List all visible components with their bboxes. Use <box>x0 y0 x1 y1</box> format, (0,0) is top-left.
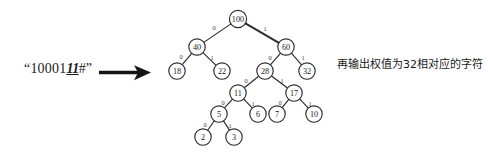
tree-edge <box>204 24 231 43</box>
tree-node: 17 <box>286 85 302 101</box>
tree-node: 32 <box>299 63 315 79</box>
tree-node: 60 <box>278 39 294 55</box>
tree-node-label: 10 <box>310 110 318 119</box>
tree-edge-label: 0 <box>179 53 182 60</box>
tree-edge <box>300 99 309 108</box>
tree-edge-label: 0 <box>212 24 215 31</box>
tree-edge <box>225 99 233 108</box>
tree-node: 2 <box>195 129 211 145</box>
tree-node: 7 <box>269 106 285 122</box>
tree-edge <box>245 23 278 43</box>
tree-edge-label: 1 <box>301 54 304 61</box>
huffman-tree: 01010101010101 1004060182228321117567102… <box>0 0 488 161</box>
tree-node-label: 100 <box>232 15 244 24</box>
tree-edge-label: 0 <box>244 77 247 84</box>
annotation-text: 再输出权值为32相对应的字符 <box>337 55 483 71</box>
tree-node-label: 11 <box>234 89 242 98</box>
tree-node: 10 <box>306 106 322 122</box>
tree-node-label: 7 <box>275 110 279 119</box>
tree-node-label: 22 <box>218 67 226 76</box>
tree-edge-label: 0 <box>203 121 206 128</box>
tree-node: 3 <box>226 129 242 145</box>
tree-node: 100 <box>229 10 246 27</box>
tree-node-label: 18 <box>173 67 181 76</box>
tree-node: 18 <box>169 63 185 79</box>
tree-node-label: 17 <box>290 89 298 98</box>
tree-node-label: 2 <box>201 133 205 142</box>
tree-node-label: 40 <box>193 43 201 52</box>
tree-edge <box>291 53 301 65</box>
tree-edge-label: 1 <box>210 54 213 61</box>
tree-node: 40 <box>189 39 205 55</box>
tree-edge <box>182 53 192 64</box>
tree-edge-label: 0 <box>221 99 224 106</box>
tree-edge <box>270 53 280 65</box>
tree-node-label: 28 <box>261 67 269 76</box>
tree-edge-label: 0 <box>268 54 271 61</box>
tree-edge-label: 0 <box>278 99 281 106</box>
tree-node: 22 <box>214 63 230 79</box>
tree-node: 28 <box>257 63 273 79</box>
tree-node: 11 <box>230 85 246 101</box>
tree-edge <box>208 121 215 131</box>
tree-edge-label: 1 <box>280 77 283 84</box>
tree-edge-label: 1 <box>251 100 254 107</box>
tree-edge-label: 1 <box>308 100 311 107</box>
tree-node-label: 6 <box>256 110 260 119</box>
tree-node: 5 <box>211 106 227 122</box>
tree-node-label: 32 <box>303 67 311 76</box>
tree-node-label: 60 <box>282 43 290 52</box>
tree-edge-label: 1 <box>228 122 231 129</box>
tree-node-label: 3 <box>232 133 236 142</box>
tree-edge <box>282 99 289 107</box>
diagram-page: “1000111#” 01010101010101 10040601822283… <box>0 0 488 161</box>
tree-node-label: 5 <box>217 110 221 119</box>
tree-edge-label: 1 <box>263 25 266 32</box>
tree-node: 6 <box>250 106 266 122</box>
